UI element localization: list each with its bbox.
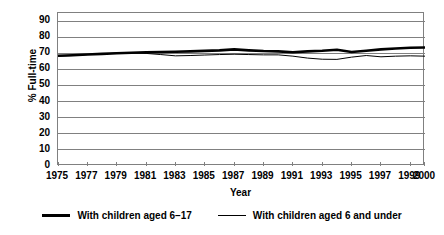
y-tick-label: 80 [26, 31, 50, 41]
plot-area [57, 12, 424, 165]
y-tick-label: 10 [26, 144, 50, 154]
chart-legend: With children aged 6–17With children age… [0, 210, 444, 221]
chart-figure: % Full-time 0102030405060708090 19751977… [0, 0, 444, 235]
y-tick-label: 70 [26, 47, 50, 57]
x-tick-label: 2000 [404, 170, 444, 182]
x-axis-tick-labels: 1975197719791981198319851987198919911993… [57, 170, 424, 184]
legend-line-swatch [218, 215, 246, 216]
y-tick-label: 60 [26, 63, 50, 73]
plot-svg [58, 13, 425, 166]
legend-label: With children aged 6–17 [77, 210, 191, 221]
y-tick-label: 90 [26, 15, 50, 25]
y-tick-label: 40 [26, 96, 50, 106]
y-tick-label: 20 [26, 128, 50, 138]
y-tick-label: 0 [26, 160, 50, 170]
y-axis-tick-labels: 0102030405060708090 [26, 12, 50, 165]
y-tick-label: 50 [26, 79, 50, 89]
x-axis-title: Year [57, 187, 424, 198]
legend-item: With children aged 6–17 [42, 210, 191, 221]
legend-item: With children aged 6 and under [218, 210, 402, 221]
legend-line-swatch [42, 214, 70, 217]
y-tick-label: 30 [26, 112, 50, 122]
legend-label: With children aged 6 and under [253, 210, 402, 221]
